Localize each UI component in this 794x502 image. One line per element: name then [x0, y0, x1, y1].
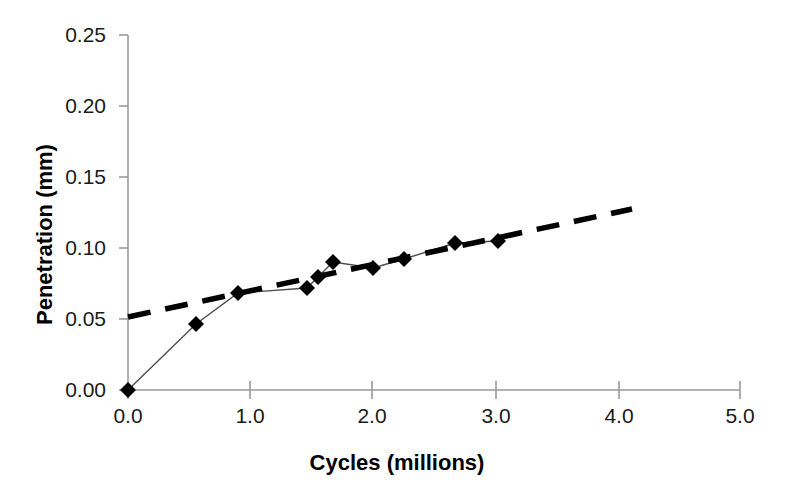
- y-axis-ticks: [119, 35, 128, 390]
- trend-dashed-line: [128, 209, 632, 317]
- y-tick-label-025: 0.25: [34, 23, 106, 47]
- x-tick-label-40: 4.0: [579, 404, 659, 428]
- penetration-vs-cycles-chart: 0.25 0.20 0.15 0.10 0.05 0.00 0.0 1.0 2.…: [0, 0, 794, 502]
- y-tick-label-020: 0.20: [34, 94, 106, 118]
- data-series-line: [128, 241, 498, 390]
- x-tick-label-20: 2.0: [332, 404, 412, 428]
- x-axis-title: Cycles (millions): [0, 450, 794, 476]
- axes-group: [128, 35, 740, 390]
- x-tick-label-10: 1.0: [210, 404, 290, 428]
- y-tick-label-000: 0.00: [34, 378, 106, 402]
- y-axis-title: Penetration (mm): [32, 144, 58, 325]
- x-tick-label-50: 5.0: [700, 404, 780, 428]
- data-point-marker: [447, 235, 463, 251]
- x-tick-label-30: 3.0: [456, 404, 536, 428]
- x-tick-label-00: 0.0: [88, 404, 168, 428]
- data-series-markers: [120, 233, 506, 398]
